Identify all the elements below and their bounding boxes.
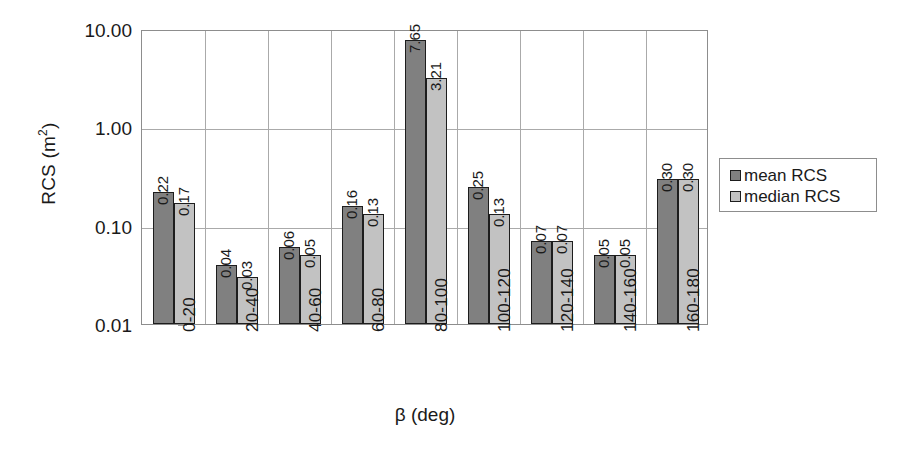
- bar-value-label: 0.07: [533, 225, 548, 254]
- x-axis-tick-label: 80-100: [433, 278, 450, 332]
- legend-label-median: median RCS: [744, 187, 840, 207]
- x-axis-tick-label: 20-40: [244, 288, 261, 332]
- y-axis-tick-label: 0.01: [46, 316, 132, 335]
- bar-value-label: 0.17: [176, 187, 191, 216]
- x-axis-tick-label: 0-20: [181, 297, 198, 332]
- bar-mean: [468, 187, 489, 324]
- bar-value-label: 0.06: [281, 231, 296, 260]
- y-axis-tick-labels: 10.001.000.100.01: [46, 0, 132, 452]
- bar-mean: [153, 192, 174, 324]
- bar-value-label: 0.03: [239, 261, 254, 290]
- bar-value-label: 0.13: [365, 198, 380, 227]
- bar-mean: [657, 179, 678, 324]
- x-axis-tick-label: 140-160: [622, 268, 639, 332]
- bar-group: 0.220.17: [142, 31, 205, 324]
- legend-label-mean: mean RCS: [744, 166, 827, 186]
- bar-group: 0.160.13: [331, 31, 394, 324]
- bar-value-label: 0.05: [596, 239, 611, 268]
- bar-group: 0.060.05: [268, 31, 331, 324]
- chart-legend: mean RCS median RCS: [719, 158, 877, 212]
- x-axis-tick-label: 40-60: [307, 288, 324, 332]
- y-axis-tick-label: 10.00: [46, 21, 132, 40]
- bar-value-label: 0.22: [155, 176, 170, 205]
- bar-group: 0.040.03: [205, 31, 268, 324]
- bar-mean: [405, 40, 426, 324]
- bar-value-label: 0.04: [218, 249, 233, 278]
- x-axis-tick-label: 100-120: [496, 268, 513, 332]
- legend-entry-median: median RCS: [730, 186, 876, 207]
- bar-value-label: 0.16: [344, 189, 359, 218]
- bar-value-label: 3.21: [428, 61, 443, 90]
- bar-value-label: 0.05: [617, 239, 632, 268]
- bar-value-label: 7.65: [407, 24, 422, 53]
- rcs-bar-chart-figure: RCS (m2) 10.001.000.100.01 0.220.170.040…: [0, 0, 908, 452]
- legend-swatch-median-icon: [730, 191, 741, 202]
- bar-mean: [342, 206, 363, 324]
- x-axis-tick-label: 60-80: [370, 288, 387, 332]
- bar-value-label: 0.07: [554, 225, 569, 254]
- y-axis-tick-label: 0.10: [46, 218, 132, 237]
- bar-value-label: 0.30: [680, 163, 695, 192]
- x-axis-title: β (deg): [345, 404, 505, 426]
- bar-value-label: 0.25: [470, 170, 485, 199]
- x-axis-tick-label: 160-180: [685, 268, 702, 332]
- bar-value-label: 0.13: [491, 198, 506, 227]
- bar-value-label: 0.30: [659, 163, 674, 192]
- x-axis-tick-label: 120-140: [559, 268, 576, 332]
- bar-value-label: 0.05: [302, 239, 317, 268]
- legend-entry-mean: mean RCS: [730, 165, 876, 186]
- legend-swatch-mean-icon: [730, 170, 741, 181]
- y-axis-tick-label: 1.00: [46, 119, 132, 138]
